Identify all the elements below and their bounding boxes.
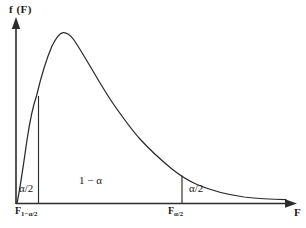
y-axis-label: f (F) bbox=[9, 4, 32, 15]
x-axis-label: F bbox=[294, 207, 301, 218]
f-distribution-figure: f (F) F α/2 1 − α α/2 F1−α/2 Fα/2 bbox=[0, 0, 306, 228]
central-area-label: 1 − α bbox=[79, 175, 102, 186]
lower-critical-value-tick-label: F1−α/2 bbox=[15, 206, 37, 216]
y-axis bbox=[12, 17, 20, 204]
plot-canvas bbox=[0, 0, 306, 228]
upper-critical-value-tick-label: Fα/2 bbox=[168, 206, 183, 216]
lower-tick-subscript: 1−α/2 bbox=[21, 210, 37, 217]
x-axis bbox=[16, 199, 297, 207]
upper-tick-subscript: α/2 bbox=[174, 210, 183, 217]
upper-tail-area-label: α/2 bbox=[189, 183, 203, 194]
lower-tail-area-label: α/2 bbox=[19, 183, 33, 194]
density-curve bbox=[17, 33, 286, 203]
